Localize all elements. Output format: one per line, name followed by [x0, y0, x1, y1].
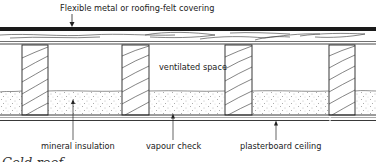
joist-4 — [329, 45, 355, 115]
timber-decking — [0, 32, 376, 44]
covering-label: Flexible metal or roofing-felt covering — [60, 3, 214, 13]
arrow-up-icon — [274, 121, 278, 126]
joist-3 — [225, 45, 252, 115]
ventilated-space-label: ventilated space — [159, 62, 227, 72]
covering-callout: Flexible metal or roofing-felt covering — [60, 3, 214, 27]
plasterboard-callout: plasterboard ceiling — [240, 121, 321, 152]
covering-layer — [0, 27, 376, 31]
mineral-insulation — [0, 91, 376, 114]
joist-2 — [122, 45, 149, 115]
joist-1 — [22, 45, 48, 115]
arrow-down-icon — [70, 22, 75, 27]
figure-caption: Cold roof — [2, 155, 65, 162]
arrow-up-icon — [171, 114, 175, 119]
ceiling-layers — [0, 115, 376, 121]
vapour-check-callout: vapour check — [146, 114, 201, 152]
mineral-insulation-label: mineral insulation — [41, 141, 115, 151]
plasterboard-ceiling-label: plasterboard ceiling — [240, 141, 321, 151]
cold-roof-diagram: Flexible metal or roofing-felt covering — [0, 0, 379, 162]
vapour-check-label: vapour check — [146, 141, 201, 151]
